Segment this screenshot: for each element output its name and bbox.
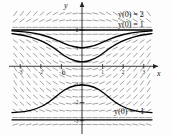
slope-field-figure: -3-2-1123-3-2-112 y(0) = 2 y(0) = 1 y(0)… (0, 0, 171, 137)
svg-text:-2: -2 (39, 69, 44, 75)
svg-text:-3: -3 (18, 69, 23, 75)
svg-text:3: 3 (142, 69, 145, 75)
svg-text:2: 2 (122, 69, 125, 75)
annotation-y0-equals-1: y(0) = 1 (118, 20, 144, 29)
svg-text:1: 1 (101, 69, 104, 75)
svg-text:-3: -3 (74, 118, 79, 124)
annotation-y0-equals-2: y(0) = 2 (118, 10, 144, 19)
y-axis-label: y (64, 1, 68, 10)
svg-text:-2: -2 (74, 99, 79, 105)
annotation-y0-equals-minus-1: y(0) = −1 (114, 107, 144, 116)
svg-text:-1: -1 (74, 81, 79, 87)
x-axis-label: x (157, 69, 161, 78)
origin-label: 0 (62, 69, 66, 77)
slope-field-plot: -3-2-1123-3-2-112 (0, 0, 171, 137)
